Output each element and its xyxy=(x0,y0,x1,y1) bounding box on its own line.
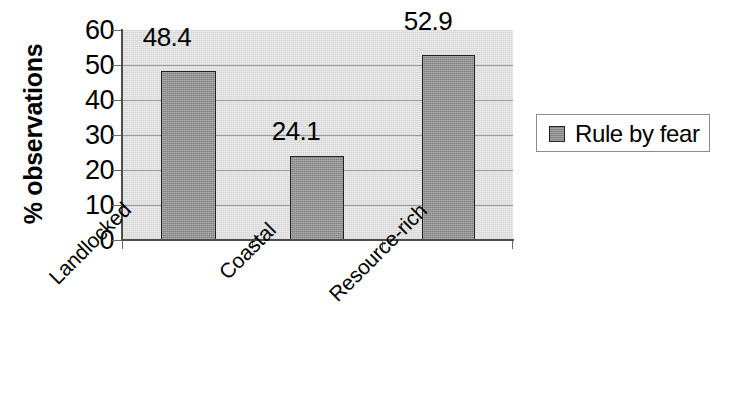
bar-value-resource-rich: 52.9 xyxy=(389,8,467,34)
bar-chart: % observations 60 50 40 30 20 10 0 48. xyxy=(0,0,739,417)
y-tick-label: 50 xyxy=(52,52,114,79)
y-tick-label: 20 xyxy=(52,157,114,184)
x-tick-mark xyxy=(122,241,123,249)
y-axis-tick-labels: 60 50 40 30 20 10 0 xyxy=(48,0,114,417)
bar-value-coastal: 24.1 xyxy=(257,118,335,144)
y-tick-label: 30 xyxy=(52,122,114,149)
x-axis-line xyxy=(121,239,514,241)
legend-label-rule-by-fear: Rule by fear xyxy=(575,121,700,147)
bar-coastal xyxy=(290,156,344,240)
y-axis-title: % observations xyxy=(18,29,48,239)
legend: Rule by fear xyxy=(536,114,710,152)
bar-value-landlocked: 48.4 xyxy=(128,24,206,50)
x-tick-mark xyxy=(512,241,513,249)
bar-resource-rich xyxy=(422,55,475,240)
bar-landlocked xyxy=(161,71,216,240)
y-tick-label: 60 xyxy=(52,17,114,44)
y-tick-label: 40 xyxy=(52,87,114,114)
legend-swatch-rule-by-fear xyxy=(549,126,565,142)
